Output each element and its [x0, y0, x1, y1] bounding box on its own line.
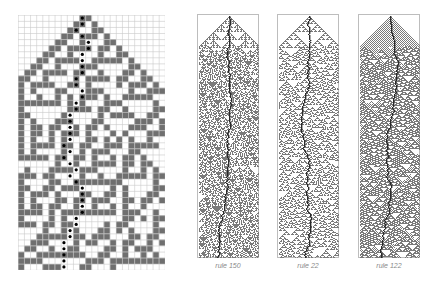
panel-rule-22: [277, 14, 339, 258]
caption-rule-22: rule 22: [268, 262, 348, 269]
automaton-pattern-rule-150: [199, 16, 259, 258]
panel-rule-122: [358, 14, 420, 258]
caption-rule-150: rule 150: [188, 262, 268, 269]
automaton-pattern-rule-22: [279, 16, 339, 258]
cellular-automaton-grid-with-path: [18, 15, 165, 270]
panel-rule-150: [197, 14, 259, 258]
automaton-pattern-rule-122: [360, 16, 420, 258]
caption-rule-122: rule 122: [349, 262, 429, 269]
